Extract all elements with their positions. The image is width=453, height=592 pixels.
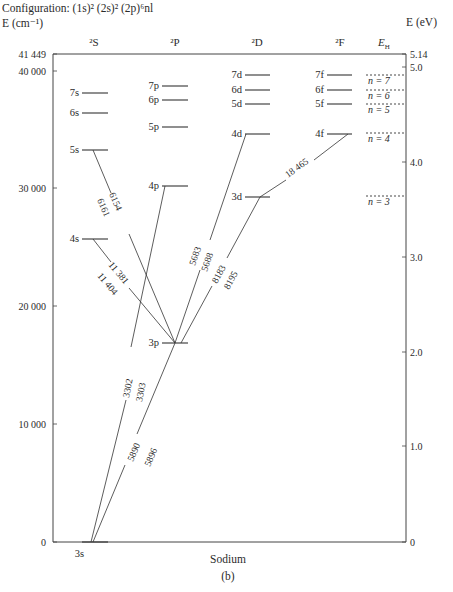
wavelength-3p-3s-a: 5890: [126, 441, 143, 463]
wavelength-4d-3p-b: 5688: [199, 251, 215, 272]
wavelength-4f-3d: 18 465: [283, 156, 310, 180]
element-label: Sodium: [210, 553, 246, 565]
energy-level-diagram: 6154 6161 11 381 11 404 3302 3303 5890 5…: [0, 0, 453, 592]
panel-label: (b): [221, 570, 234, 582]
wavelength-4p-3s-a: 3302: [121, 378, 134, 399]
wavelength-4p-3s-b: 3303: [134, 382, 147, 403]
wavelength-3p-3s-b: 5896: [143, 446, 160, 468]
